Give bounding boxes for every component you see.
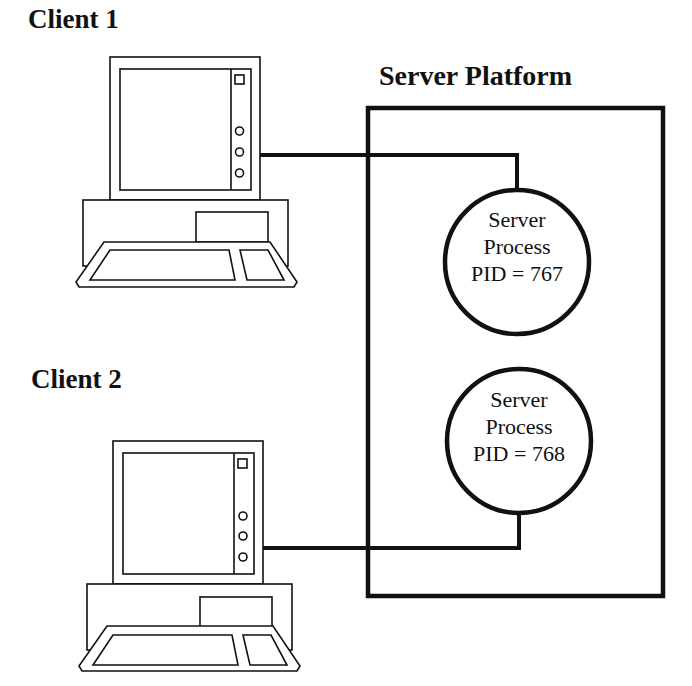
server-process-768: Server Process PID = 768 — [449, 386, 589, 467]
diagram-canvas — [0, 0, 692, 686]
process-label-line1: Server — [449, 386, 589, 413]
process-pid: PID = 767 — [447, 260, 587, 287]
connection-line-client-2 — [263, 513, 519, 548]
process-pid: PID = 768 — [449, 440, 589, 467]
process-label-line2: Process — [447, 233, 587, 260]
computer-icon-client-2 — [79, 441, 300, 671]
process-label-line2: Process — [449, 413, 589, 440]
process-label-line1: Server — [447, 206, 587, 233]
server-process-767: Server Process PID = 767 — [447, 206, 587, 287]
computer-icon-client-1 — [76, 57, 297, 287]
connection-line-client-1 — [260, 155, 517, 190]
